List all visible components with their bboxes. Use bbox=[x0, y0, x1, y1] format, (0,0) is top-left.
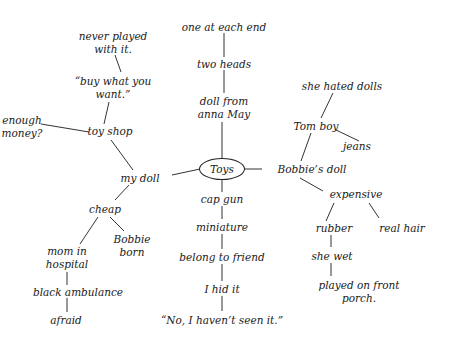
node-label: never played bbox=[79, 30, 148, 43]
node-doll-from-anna-may: doll fromanna May bbox=[198, 95, 250, 121]
node-played-on-front-porch: played on frontporch. bbox=[318, 279, 399, 305]
connector-line bbox=[110, 217, 124, 231]
node-no-havent-seen: “No, I haven’t seen it.” bbox=[161, 314, 283, 327]
node-bobbie-born: Bobbieborn bbox=[113, 233, 150, 259]
connector-line bbox=[172, 169, 200, 175]
node-miniature: miniature bbox=[196, 221, 248, 234]
node-label: born bbox=[113, 246, 150, 259]
node-label: Bobbie bbox=[113, 233, 150, 246]
connector-line bbox=[104, 102, 109, 124]
node-label: Tom boy bbox=[294, 120, 339, 133]
node-cheap: cheap bbox=[89, 203, 121, 216]
node-belong-to-friend: belong to friend bbox=[179, 251, 264, 264]
node-two-heads: two heads bbox=[197, 58, 251, 71]
node-she-wet: she wet bbox=[311, 250, 352, 263]
connector-line bbox=[111, 140, 133, 170]
node-rubber: rubber bbox=[316, 222, 352, 235]
node-cap-gun: cap gun bbox=[201, 193, 243, 206]
node-buy-what-you-want: “buy what youwant.” bbox=[75, 75, 152, 101]
node-label: enough bbox=[2, 114, 43, 127]
node-expensive: expensive bbox=[330, 188, 383, 201]
node-label: jeans bbox=[343, 140, 371, 153]
node-label: I hid it bbox=[204, 283, 239, 296]
node-label: real hair bbox=[379, 222, 425, 235]
connector-line bbox=[41, 124, 89, 132]
node-label: money? bbox=[2, 127, 43, 140]
connector-line bbox=[369, 203, 379, 218]
node-never-played: never playedwith it. bbox=[79, 30, 148, 56]
node-label: she wet bbox=[311, 250, 352, 263]
node-bobbies-doll: Bobbie’s doll bbox=[278, 163, 347, 176]
node-label: one at each end bbox=[182, 21, 267, 34]
connector-line bbox=[115, 185, 129, 200]
node-label: rubber bbox=[316, 222, 352, 235]
connector-line bbox=[300, 178, 323, 191]
connector-line bbox=[115, 55, 121, 72]
node-label: “No, I haven’t seen it.” bbox=[161, 314, 283, 327]
node-she-hated-dolls: she hated dolls bbox=[302, 80, 382, 93]
node-label: belong to friend bbox=[179, 251, 264, 264]
node-label: “buy what you bbox=[75, 75, 152, 88]
connector-line bbox=[80, 217, 98, 244]
node-toy-shop: toy shop bbox=[87, 125, 132, 138]
node-label: afraid bbox=[50, 314, 82, 327]
node-label: two heads bbox=[197, 58, 251, 71]
node-my-doll: my doll bbox=[121, 172, 160, 185]
connector-line bbox=[321, 93, 333, 118]
node-afraid: afraid bbox=[50, 314, 82, 327]
node-real-hair: real hair bbox=[379, 222, 425, 235]
node-i-hid-it: I hid it bbox=[204, 283, 239, 296]
node-one-at-each-end: one at each end bbox=[182, 21, 267, 34]
node-tom-boy: Tom boy bbox=[294, 120, 339, 133]
node-label: toy shop bbox=[87, 125, 132, 138]
node-label: hospital bbox=[46, 258, 88, 271]
node-label: cheap bbox=[89, 203, 121, 216]
node-mom-in-hospital: mom inhospital bbox=[46, 245, 88, 271]
node-label: black ambulance bbox=[33, 286, 123, 299]
center-node-toys: Toys bbox=[199, 158, 245, 180]
node-label: with it. bbox=[79, 43, 148, 56]
node-label: she hated dolls bbox=[302, 80, 382, 93]
node-black-ambulance: black ambulance bbox=[33, 286, 123, 299]
node-label: porch. bbox=[318, 292, 399, 305]
connector-line bbox=[301, 133, 311, 161]
node-label: played on front bbox=[318, 279, 399, 292]
connector-line bbox=[326, 203, 334, 221]
node-label: expensive bbox=[330, 188, 383, 201]
mind-map: Toys one at each endtwo headsdoll froman… bbox=[0, 0, 450, 342]
node-label: mom in bbox=[46, 245, 88, 258]
node-label: want.” bbox=[75, 88, 152, 101]
node-label: my doll bbox=[121, 172, 160, 185]
node-label: cap gun bbox=[201, 193, 243, 206]
node-label: anna May bbox=[198, 108, 250, 121]
node-label: Bobbie’s doll bbox=[278, 163, 347, 176]
node-label: doll from bbox=[198, 95, 250, 108]
node-jeans: jeans bbox=[343, 140, 371, 153]
node-label: miniature bbox=[196, 221, 248, 234]
node-enough-money: enoughmoney? bbox=[2, 114, 43, 140]
